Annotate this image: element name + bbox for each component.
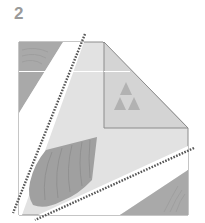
folded-corner-panel	[104, 42, 188, 128]
fold-diagram	[0, 0, 205, 223]
